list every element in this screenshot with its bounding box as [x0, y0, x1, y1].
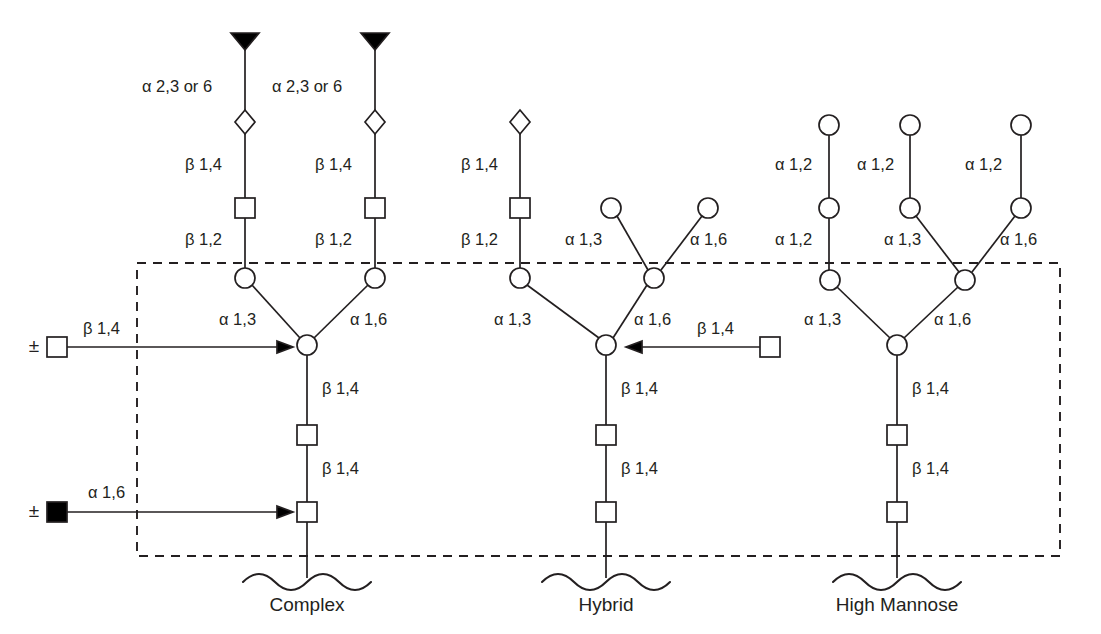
complex-a16-label: α 1,6	[350, 310, 387, 328]
hybrid-glcnac-label: β 1,2	[461, 230, 498, 248]
hm-a16-upper-label: α 1,6	[1000, 230, 1037, 248]
core-fucose-arrowhead	[277, 506, 293, 518]
complex-right-glcnac-label: β 1,2	[315, 230, 352, 248]
complex-right-sia-label: α 2,3 or 6	[272, 77, 342, 95]
glycan-figure: α 2,3 or 6 α 2,3 or 6 β 1,4 β 1,4 β 1,2 …	[0, 0, 1101, 634]
bisecting-glcnac-plusminus: ±	[29, 335, 39, 356]
complex-left-gal-label: β 1,4	[185, 155, 222, 173]
hm-core-b14-lower-label: β 1,4	[912, 459, 949, 477]
hybrid-core-b14-lower-label: β 1,4	[621, 459, 658, 477]
hm-a13-lower-label: α 1,3	[804, 310, 841, 328]
hm-a12-left-label: α 1,2	[775, 155, 812, 173]
hm-right-terminal-mannose-circle	[1011, 115, 1031, 135]
complex-right-sialic-acid-triangle	[361, 33, 389, 50]
hm-core-mannose-circle	[887, 335, 907, 355]
hm-core-glcnac-lower-square	[887, 502, 907, 522]
core-fucose-label: α 1,6	[88, 483, 125, 501]
structure-high-mannose: α 1,2 α 1,2 α 1,2 α 1,2 α 1,3 α 1,6 α 1,…	[775, 115, 1037, 615]
hybrid-core-mannose-circle	[596, 335, 616, 355]
hybrid-a13-branch-line	[527, 285, 599, 338]
hm-mid-terminal-mannose-circle	[900, 115, 920, 135]
structure-hybrid: β 1,4 β 1,2 α 1,3 α 1,6 α 1,3 α 1,6 β 1,…	[461, 110, 727, 615]
bisecting-glcnac-square	[47, 337, 67, 357]
hybrid-a13-label: α 1,3	[494, 310, 531, 328]
caption-high-mannose: High Mannose	[836, 594, 959, 615]
caption-hybrid: Hybrid	[579, 594, 634, 615]
hm-a13-branch-line	[837, 287, 890, 338]
hybrid-core-b14-upper-label: β 1,4	[621, 379, 658, 397]
hybrid-bisecting-glcnac-label: β 1,4	[697, 319, 734, 337]
bisecting-glcnac-label: β 1,4	[83, 319, 120, 337]
hm-a16-lower-label: α 1,6	[934, 310, 971, 328]
hybrid-core-glcnac-lower-square	[596, 502, 616, 522]
hm-core-b14-upper-label: β 1,4	[912, 379, 949, 397]
hybrid-a16-label: α 1,6	[634, 310, 671, 328]
complex-left-glcnac-label: β 1,2	[185, 230, 222, 248]
hybrid-galactose-diamond	[510, 110, 530, 134]
complex-core-b14-upper-label: β 1,4	[322, 379, 359, 397]
hybrid-a13-upper-line	[617, 216, 648, 270]
hm-a12-left-lower-label: α 1,2	[775, 230, 812, 248]
complex-left-sia-label: α 2,3 or 6	[142, 77, 212, 95]
core-fucose-plusminus: ±	[29, 500, 39, 521]
hm-core-glcnac-upper-square	[887, 425, 907, 445]
complex-left-glcnac-square	[235, 198, 255, 218]
structure-complex: α 2,3 or 6 α 2,3 or 6 β 1,4 β 1,4 β 1,2 …	[142, 33, 389, 615]
glycan-diagram-canvas: α 2,3 or 6 α 2,3 or 6 β 1,4 β 1,4 β 1,2 …	[0, 0, 1101, 634]
hm-left-terminal-mannose-circle	[819, 115, 839, 135]
core-fucose-square	[47, 502, 67, 522]
modifier-core-fucose: ± α 1,6	[29, 483, 293, 522]
hybrid-upper-a13-label: α 1,3	[565, 230, 602, 248]
complex-a13-branch-line	[252, 285, 300, 338]
complex-core-glcnac-lower-square	[297, 502, 317, 522]
caption-complex: Complex	[270, 594, 345, 615]
complex-left-sialic-acid-triangle	[231, 33, 259, 50]
complex-core-mannose-circle	[297, 335, 317, 355]
complex-left-galactose-diamond	[235, 110, 255, 134]
complex-core-glcnac-upper-square	[297, 425, 317, 445]
complex-right-glcnac-square	[365, 198, 385, 218]
hm-a12-mid-label: α 1,2	[857, 155, 894, 173]
hybrid-bisecting-glcnac-square	[760, 337, 780, 357]
bisecting-glcnac-arrowhead	[277, 341, 293, 353]
hybrid-gal-label: β 1,4	[461, 155, 498, 173]
hybrid-glcnac-square	[510, 198, 530, 218]
hm-right-mannose-circle	[1011, 198, 1031, 218]
complex-a13-label: α 1,3	[219, 310, 256, 328]
complex-core-b14-lower-label: β 1,4	[322, 459, 359, 477]
complex-right-gal-label: β 1,4	[315, 155, 352, 173]
hm-a13-upper-label: α 1,3	[884, 230, 921, 248]
hybrid-terminal-mannose-a16-circle	[698, 198, 718, 218]
hybrid-terminal-mannose-a13-circle	[601, 198, 621, 218]
complex-right-galactose-diamond	[365, 110, 385, 134]
hybrid-core-glcnac-upper-square	[596, 425, 616, 445]
hybrid-upper-a16-label: α 1,6	[690, 230, 727, 248]
hm-left-mid-mannose-circle	[819, 198, 839, 218]
hm-mid-mannose-circle	[900, 198, 920, 218]
hybrid-bisecting-glcnac-arrowhead	[626, 341, 642, 353]
hm-a12-right-label: α 1,2	[965, 155, 1002, 173]
